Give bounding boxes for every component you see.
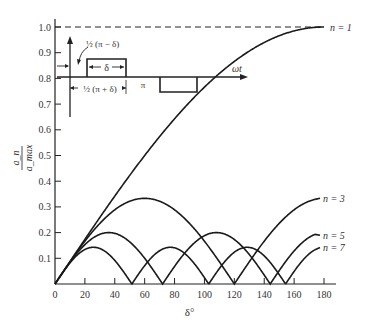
axes: 0204060801001201401601800.10.20.30.40.50… (10, 19, 336, 318)
x-tick-label: 40 (110, 289, 120, 300)
omega-t-label: ωt (232, 63, 242, 74)
x-tick-label: 20 (80, 289, 90, 300)
y-tick-label: 0.2 (39, 227, 52, 238)
series-label-n-5: n = 5 (323, 230, 345, 241)
x-axis-label: δ° (185, 306, 195, 318)
half-pi-minus-delta-label: ½ (π − δ) (86, 39, 119, 49)
y-tick-label: 0.5 (39, 150, 52, 161)
y-tick-label: 0.7 (39, 99, 52, 110)
x-tick-label: 160 (287, 289, 302, 300)
y-tick-label: 1.0 (39, 22, 52, 33)
x-tick-label: 0 (53, 289, 58, 300)
series-label-n-1: n = 1 (330, 22, 352, 33)
series-label-n-7: n = 7 (323, 242, 346, 253)
y-tick-label: 0.8 (39, 73, 52, 84)
curve-n-7 (55, 247, 315, 284)
y-tick-label: 0.9 (39, 47, 52, 58)
y-tick-label: 0.3 (39, 201, 52, 212)
x-tick-label: 120 (227, 289, 242, 300)
pi-label: π (141, 80, 146, 90)
y-tick-label: 0.6 (39, 124, 52, 135)
y-tick-label: 0.4 (39, 176, 52, 187)
curves: n = 1n = 3n = 5n = 7 (55, 22, 352, 285)
curve-n-5 (55, 233, 315, 284)
y-axis-label: a_na_max (10, 144, 34, 171)
x-tick-label: 80 (170, 289, 180, 300)
x-tick-label: 180 (317, 289, 332, 300)
half-pi-plus-delta-label: ½ (π + δ) (83, 84, 116, 94)
waveform-inset: δ ½ (π + δ) ½ (π − δ) π ωt (57, 36, 248, 117)
y-tick-label: 0.1 (39, 253, 52, 264)
series-label-n-3: n = 3 (323, 193, 345, 204)
x-tick-label: 100 (197, 289, 212, 300)
svg-text:a_n: a_n (10, 151, 21, 166)
svg-text:a_max: a_max (23, 144, 34, 171)
curve-n-1 (55, 27, 324, 284)
delta-label: δ (104, 62, 109, 73)
harmonic-amplitude-chart: 0204060801001201401601800.10.20.30.40.50… (0, 0, 365, 327)
x-tick-label: 140 (257, 289, 272, 300)
x-tick-label: 60 (140, 289, 150, 300)
